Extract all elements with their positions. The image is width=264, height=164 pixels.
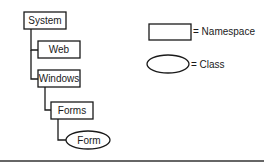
connector-forms-form <box>58 119 66 140</box>
namespace-diagram: System Web Windows Forms Form = Namespac… <box>0 0 264 164</box>
connector-system-windows <box>31 50 38 79</box>
legend: = Namespace = Class <box>147 24 255 73</box>
node-label: Windows <box>39 73 80 84</box>
connector-system-web <box>31 29 38 50</box>
node-label: Web <box>49 44 70 55</box>
node-label: Forms <box>58 105 86 116</box>
node-label: System <box>28 15 61 26</box>
node-form[interactable]: Form <box>66 131 110 149</box>
legend-class-ellipse <box>147 55 189 73</box>
node-windows[interactable]: Windows <box>38 70 80 87</box>
legend-namespace-label: = Namespace <box>193 26 255 37</box>
legend-class: = Class <box>147 55 225 73</box>
connector-windows-forms <box>45 87 51 110</box>
legend-class-label: = Class <box>191 59 225 70</box>
node-label: Form <box>77 135 100 146</box>
legend-namespace: = Namespace <box>149 24 255 40</box>
legend-namespace-box <box>149 24 191 40</box>
node-forms[interactable]: Forms <box>51 102 93 119</box>
node-web[interactable]: Web <box>38 41 80 58</box>
node-system[interactable]: System <box>24 12 66 29</box>
